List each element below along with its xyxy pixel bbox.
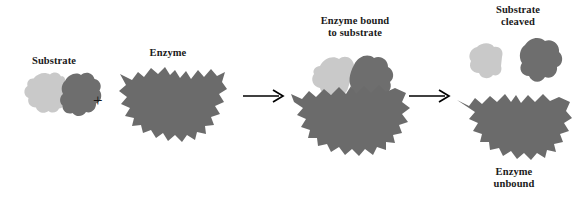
cleaved-substrate-light — [465, 42, 510, 82]
plus-sign: + — [93, 92, 103, 109]
arrow-1 — [243, 88, 288, 104]
substrate-light-lobe — [24, 73, 65, 113]
enzyme-unbound-label: Enzyme unbound — [474, 166, 554, 190]
arrow-2 — [409, 88, 454, 104]
substrate-cleaved-label: Substrate cleaved — [478, 4, 558, 28]
substrate-dark-lobe — [520, 38, 562, 82]
substrate-molecule — [20, 69, 104, 124]
enzyme-body — [119, 67, 227, 142]
unbound-enzyme — [455, 90, 573, 162]
substrate-light-lobe — [469, 43, 502, 78]
enzyme-substrate-diagram: Substrate + Enzyme Enzyme bound to subst… — [0, 0, 578, 199]
enzyme-label: Enzyme — [128, 47, 208, 59]
enzyme-bound-label: Enzyme bound to substrate — [297, 15, 413, 39]
enzyme-substrate-complex — [288, 50, 414, 160]
cleaved-substrate-dark — [515, 36, 565, 86]
enzyme-molecule — [118, 62, 228, 146]
enzyme-body — [457, 94, 572, 160]
substrate-label: Substrate — [14, 55, 94, 67]
